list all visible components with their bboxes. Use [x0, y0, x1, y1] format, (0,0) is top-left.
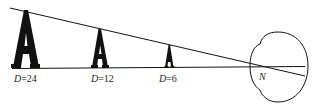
- letter-a-medium: [91, 29, 109, 68]
- letter-a-large: [11, 10, 40, 68]
- label-d24: D=24: [13, 73, 37, 84]
- baseline-axis: [12, 67, 305, 69]
- visual-angle-diagram: D=24 D=12 D=6 N: [0, 0, 313, 109]
- letter-a-small: [165, 45, 175, 68]
- label-nodal-point: N: [258, 71, 267, 82]
- label-d6: D=6: [158, 73, 177, 84]
- label-d12: D=12: [90, 73, 114, 84]
